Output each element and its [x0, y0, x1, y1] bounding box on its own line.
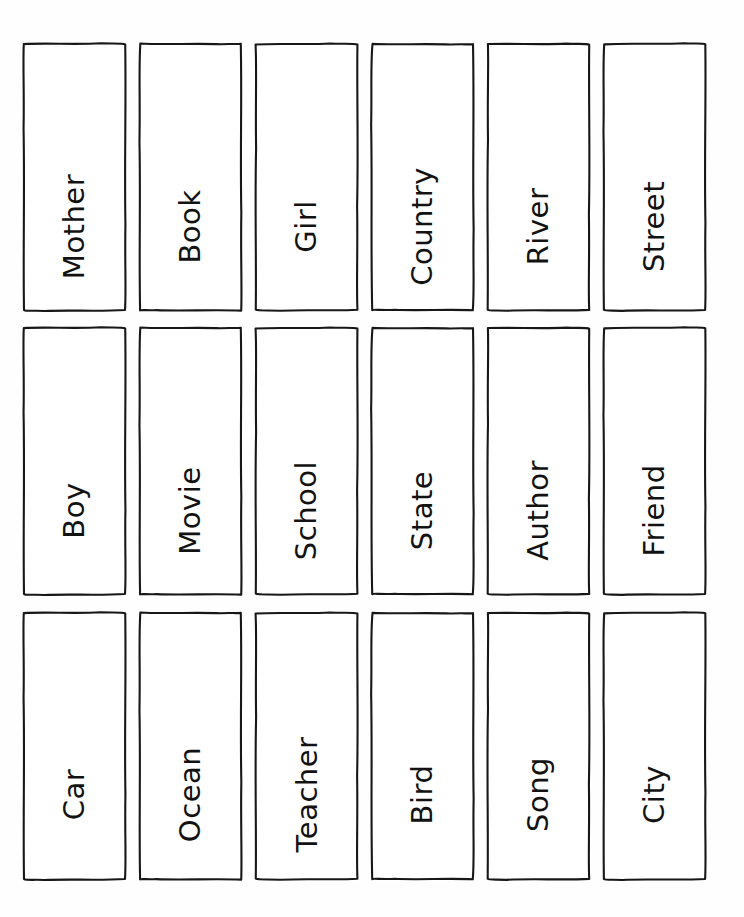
flashcard[interactable]: Ocean	[137, 610, 244, 882]
flashcard-border	[369, 325, 476, 597]
flashcard-border	[485, 610, 592, 882]
flashcard[interactable]: Street	[601, 41, 708, 313]
flashcard-border	[485, 41, 592, 313]
flashcard-border	[369, 610, 476, 882]
flashcard[interactable]: Mother	[21, 41, 128, 313]
flashcard-border	[485, 325, 592, 597]
flashcard[interactable]: Movie	[137, 325, 244, 597]
flashcard-border	[137, 41, 244, 313]
flashcard-border	[21, 325, 128, 597]
flashcard[interactable]: City	[601, 610, 708, 882]
flashcard[interactable]: Boy	[21, 325, 128, 597]
flashcard[interactable]: Book	[137, 41, 244, 313]
flashcard[interactable]: Author	[485, 325, 592, 597]
flashcard-border	[137, 325, 244, 597]
flashcard[interactable]: Song	[485, 610, 592, 882]
flashcard-border	[253, 325, 360, 597]
flashcard[interactable]: Girl	[253, 41, 360, 313]
flashcard[interactable]: River	[485, 41, 592, 313]
flashcard[interactable]: Bird	[369, 610, 476, 882]
flashcard-border	[601, 325, 708, 597]
flashcard[interactable]: Country	[369, 41, 476, 313]
flashcard[interactable]: State	[369, 325, 476, 597]
flashcard[interactable]: Friend	[601, 325, 708, 597]
flashcard-border	[137, 610, 244, 882]
flashcard-border	[21, 41, 128, 313]
flashcard-grid: MotherBookGirlCountryRiverStreetBoyMovie…	[21, 41, 708, 882]
flashcard-border	[253, 610, 360, 882]
flashcard-border	[601, 610, 708, 882]
flashcard[interactable]: Teacher	[253, 610, 360, 882]
worksheet-page: MotherBookGirlCountryRiverStreetBoyMovie…	[0, 0, 744, 917]
flashcard-border	[601, 41, 708, 313]
flashcard-border	[253, 41, 360, 313]
flashcard[interactable]: Car	[21, 610, 128, 882]
flashcard-border	[21, 610, 128, 882]
flashcard[interactable]: School	[253, 325, 360, 597]
flashcard-border	[369, 41, 476, 313]
